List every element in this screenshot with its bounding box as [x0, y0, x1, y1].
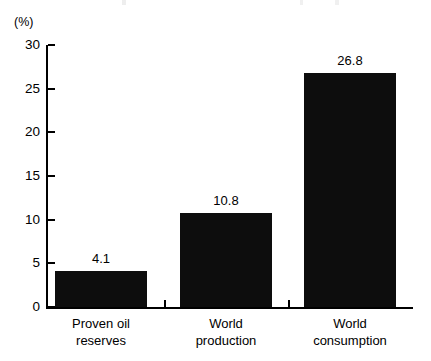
y-axis-tick-label: 5 — [0, 256, 40, 270]
bar — [55, 271, 147, 307]
x-axis-category-label: Worldproduction — [165, 316, 287, 349]
y-axis-tick-label: 0 — [0, 300, 40, 314]
bar — [180, 213, 272, 307]
y-axis-tick — [48, 219, 55, 221]
bar-value-label: 26.8 — [304, 54, 396, 67]
x-axis-category-label: Worldconsumption — [289, 316, 411, 349]
y-axis-tick — [48, 44, 55, 46]
y-axis-tick-label: 10 — [0, 213, 40, 227]
category-label-line: consumption — [289, 333, 411, 350]
bar-value-label: 10.8 — [180, 194, 272, 207]
y-axis-tick — [48, 88, 55, 90]
y-axis-tick-label: 20 — [0, 125, 40, 139]
category-label-line: Proven oil — [40, 316, 162, 333]
y-axis-tick — [48, 262, 55, 264]
category-label-line: reserves — [40, 333, 162, 350]
category-label-line: World — [165, 316, 287, 333]
y-axis-tick-label: 25 — [0, 82, 40, 96]
y-axis-line — [46, 45, 48, 309]
y-axis-tick-label: 15 — [0, 169, 40, 183]
x-axis-line — [46, 307, 413, 309]
plot-area: 051015202530 4.110.826.8 Proven oilreser… — [0, 0, 431, 361]
y-axis-tick — [48, 306, 55, 308]
x-axis-category-label: Proven oilreserves — [40, 316, 162, 349]
x-axis-tick — [288, 300, 290, 307]
category-label-line: production — [165, 333, 287, 350]
bar-chart-figure: (%) 051015202530 4.110.826.8 Proven oilr… — [0, 0, 431, 361]
category-label-line: World — [289, 316, 411, 333]
x-axis-tick — [164, 300, 166, 307]
bar-value-label: 4.1 — [55, 252, 147, 265]
bar — [304, 73, 396, 307]
y-axis-tick-label: 30 — [0, 38, 40, 52]
y-axis-tick — [48, 131, 55, 133]
y-axis-tick — [48, 175, 55, 177]
